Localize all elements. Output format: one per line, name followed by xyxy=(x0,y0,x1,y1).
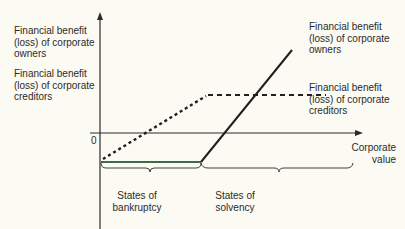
solvency-label: States of solvency xyxy=(210,190,260,213)
creditors-rising-line xyxy=(103,96,206,159)
bankruptcy-brace xyxy=(101,163,201,172)
origin-label: 0 xyxy=(91,135,97,147)
owners-line-label: Financial benefit (loss) of corporate ow… xyxy=(309,21,390,56)
y-axis-label-owners: Financial benefit (loss) of corporate ow… xyxy=(14,25,95,60)
y-axis-arrow-icon xyxy=(97,12,103,20)
owners-rising-line xyxy=(201,50,292,162)
solvency-brace xyxy=(201,163,353,172)
bankruptcy-label: States of bankruptcy xyxy=(108,190,166,213)
y-axis-label-creditors: Financial benefit (loss) of corporate cr… xyxy=(14,68,95,103)
x-axis-arrow-icon xyxy=(355,130,363,136)
creditors-line-label: Financial benefit (loss) of corporate cr… xyxy=(309,82,390,117)
x-axis-label: Corporate value xyxy=(346,142,396,165)
